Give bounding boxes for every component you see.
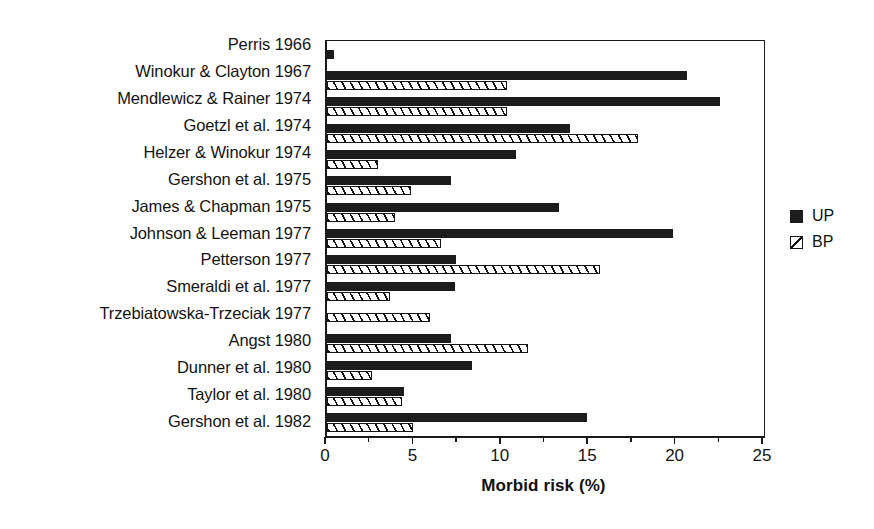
bar-bp bbox=[327, 213, 395, 222]
bar-bp bbox=[327, 371, 372, 380]
bar-bp bbox=[327, 292, 390, 301]
bar-up bbox=[327, 50, 334, 59]
x-tick-label: 10 bbox=[490, 446, 509, 466]
bar-up bbox=[327, 282, 455, 291]
x-axis-ticks bbox=[325, 437, 762, 446]
bar-up bbox=[327, 97, 720, 106]
bar-up bbox=[327, 203, 559, 212]
bar-up bbox=[327, 255, 456, 264]
x-tick-major bbox=[499, 437, 501, 444]
x-tick-major bbox=[412, 437, 414, 444]
x-tick-minor bbox=[543, 437, 545, 442]
bar-up bbox=[327, 387, 404, 396]
legend-swatch-up-icon bbox=[790, 210, 803, 223]
x-tick-label: 25 bbox=[753, 446, 772, 466]
bar-row bbox=[327, 331, 764, 357]
x-tick-major bbox=[324, 437, 326, 444]
bar-bp bbox=[327, 81, 507, 90]
legend: UP BP bbox=[790, 203, 870, 255]
bar-row bbox=[327, 278, 764, 304]
bar-up bbox=[327, 413, 587, 422]
x-tick-major bbox=[674, 437, 676, 444]
bar-row bbox=[327, 41, 764, 67]
bar-up bbox=[327, 176, 451, 185]
y-axis-label: Trzebiatowska-Trzeciak 1977 bbox=[0, 300, 318, 327]
bar-up bbox=[327, 334, 451, 343]
y-axis-label: Dunner et al. 1980 bbox=[0, 354, 318, 381]
bar-up bbox=[327, 361, 472, 370]
bar-up bbox=[327, 229, 673, 238]
x-tick-minor bbox=[630, 437, 632, 442]
bar-up bbox=[327, 124, 570, 133]
bar-bp bbox=[327, 397, 402, 406]
bar-bp bbox=[327, 239, 441, 248]
bar-row bbox=[327, 199, 764, 225]
bar-bp bbox=[327, 423, 413, 432]
bar-row bbox=[327, 304, 764, 330]
legend-item-bp: BP bbox=[790, 229, 870, 255]
x-tick-label: 0 bbox=[320, 446, 329, 466]
y-axis-label: Perris 1966 bbox=[0, 31, 318, 58]
y-axis-category-labels: Perris 1966Winokur & Clayton 1967Mendlew… bbox=[0, 31, 318, 435]
plot-area bbox=[325, 40, 765, 438]
bar-bp bbox=[327, 107, 507, 116]
x-tick-label: 20 bbox=[665, 446, 684, 466]
bar-row bbox=[327, 252, 764, 278]
bar-row bbox=[327, 94, 764, 120]
bar-rows bbox=[327, 41, 764, 436]
x-tick-label: 5 bbox=[408, 446, 417, 466]
bar-row bbox=[327, 173, 764, 199]
x-tick-label: 15 bbox=[578, 446, 597, 466]
y-axis-label: Mendlewicz & Rainer 1974 bbox=[0, 85, 318, 112]
bar-bp bbox=[327, 160, 378, 169]
y-axis-label: James & Chapman 1975 bbox=[0, 193, 318, 220]
bar-up bbox=[327, 71, 687, 80]
y-axis-label: Gershon et al. 1982 bbox=[0, 408, 318, 435]
legend-label-up: UP bbox=[812, 207, 834, 225]
y-axis-label: Petterson 1977 bbox=[0, 247, 318, 274]
y-axis-label: Johnson & Leeman 1977 bbox=[0, 220, 318, 247]
bar-bp bbox=[327, 313, 430, 322]
x-tick-major bbox=[761, 437, 763, 444]
y-axis-label: Taylor et al. 1980 bbox=[0, 381, 318, 408]
bar-row bbox=[327, 146, 764, 172]
y-axis-label: Gershon et al. 1975 bbox=[0, 166, 318, 193]
bar-up bbox=[327, 150, 516, 159]
x-tick-minor bbox=[455, 437, 457, 442]
bar-row bbox=[327, 225, 764, 251]
bar-row bbox=[327, 410, 764, 436]
y-axis-label: Angst 1980 bbox=[0, 327, 318, 354]
y-axis-label: Smeraldi et al. 1977 bbox=[0, 273, 318, 300]
legend-item-up: UP bbox=[790, 203, 870, 229]
bar-bp bbox=[327, 186, 411, 195]
y-axis-label: Goetzl et al. 1974 bbox=[0, 112, 318, 139]
morbid-risk-bar-chart: Perris 1966Winokur & Clayton 1967Mendlew… bbox=[0, 0, 874, 529]
y-axis-label: Winokur & Clayton 1967 bbox=[0, 58, 318, 85]
bar-row bbox=[327, 357, 764, 383]
bar-row bbox=[327, 67, 764, 93]
bar-bp bbox=[327, 134, 638, 143]
bar-row bbox=[327, 383, 764, 409]
x-axis-title: Morbid risk (%) bbox=[325, 476, 762, 496]
y-axis-label: Helzer & Winokur 1974 bbox=[0, 139, 318, 166]
bar-bp bbox=[327, 344, 528, 353]
bar-bp bbox=[327, 265, 600, 274]
x-tick-minor bbox=[718, 437, 720, 442]
x-axis-tick-labels: 0510152025 bbox=[325, 446, 762, 470]
legend-swatch-bp-icon bbox=[790, 236, 803, 249]
x-tick-major bbox=[586, 437, 588, 444]
bar-row bbox=[327, 120, 764, 146]
x-tick-minor bbox=[368, 437, 370, 442]
legend-label-bp: BP bbox=[812, 233, 833, 251]
